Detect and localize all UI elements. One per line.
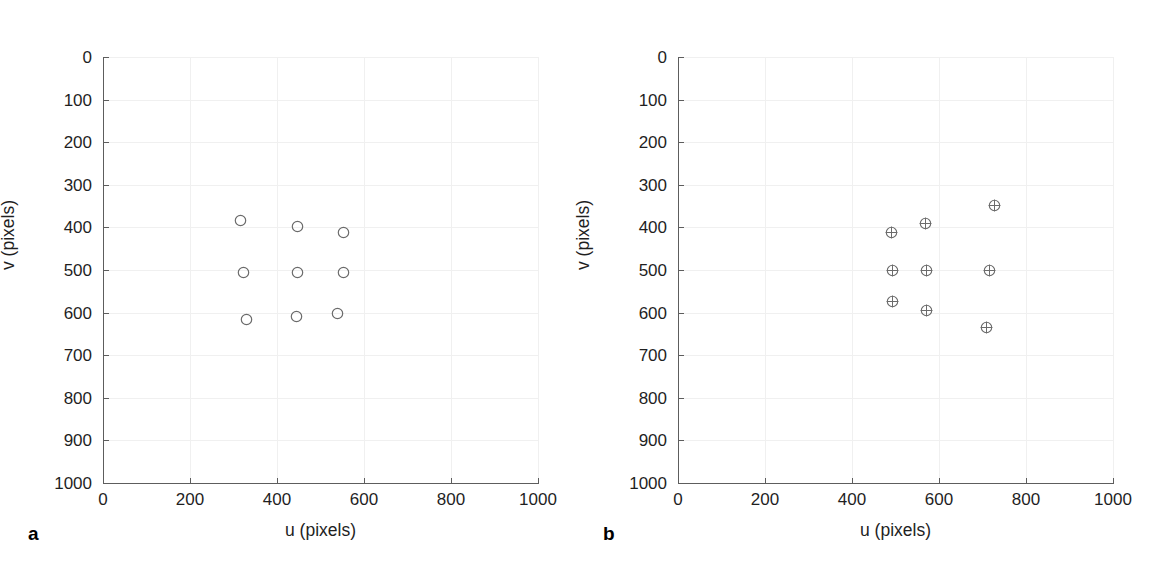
x-axis-title-b: u (pixels) — [678, 522, 1113, 540]
y-axis-tick-label: 1000 — [54, 475, 92, 492]
data-point-circle-plus-icon — [919, 217, 932, 230]
y-axis-tick — [678, 270, 684, 271]
data-point-circle-icon — [337, 226, 350, 239]
y-axis-tick — [678, 483, 684, 484]
y-axis-tick — [103, 142, 109, 143]
x-axis-title-a: u (pixels) — [103, 522, 538, 540]
y-axis-tick-label: 900 — [64, 432, 92, 449]
x-axis-tick — [190, 478, 191, 484]
gridline-horizontal — [103, 440, 538, 441]
y-axis-tick — [678, 398, 684, 399]
x-axis-tick — [277, 478, 278, 484]
x-axis-tick — [939, 478, 940, 484]
y-axis-title-a: v (pixels) — [0, 200, 18, 270]
data-point-circle-plus-icon — [988, 199, 1001, 212]
y-axis-tick-label: 400 — [64, 219, 92, 236]
x-axis-tick-label: 800 — [1012, 491, 1040, 508]
y-axis-tick — [678, 355, 684, 356]
x-axis-line-a — [103, 483, 538, 484]
gridline-horizontal — [678, 355, 1113, 356]
data-point-circle-plus-icon — [983, 264, 996, 277]
x-axis-tick-label: 400 — [263, 491, 291, 508]
x-axis-tick-label: 200 — [751, 491, 779, 508]
gridline-horizontal — [103, 100, 538, 101]
gridline-horizontal — [678, 142, 1113, 143]
y-axis-tick — [678, 440, 684, 441]
x-axis-tick-label: 600 — [925, 491, 953, 508]
y-axis-tick-label: 800 — [64, 389, 92, 406]
gridline-vertical — [1113, 57, 1114, 483]
y-axis-tick — [103, 355, 109, 356]
y-axis-tick-label: 0 — [83, 49, 92, 66]
x-axis-tick — [364, 478, 365, 484]
y-axis-tick — [103, 440, 109, 441]
data-point-circle-plus-icon — [980, 321, 993, 334]
y-axis-tick — [678, 142, 684, 143]
y-axis-tick — [103, 227, 109, 228]
y-axis-tick-label: 300 — [64, 176, 92, 193]
y-axis-tick-label: 500 — [64, 262, 92, 279]
y-axis-tick-label: 400 — [639, 219, 667, 236]
plot-area-b: 0200400600800100001002003004005006007008… — [678, 57, 1113, 483]
data-point-circle-icon — [237, 266, 250, 279]
x-axis-tick — [1026, 478, 1027, 484]
data-point-circle-icon — [290, 310, 303, 323]
gridline-horizontal — [678, 100, 1113, 101]
y-axis-tick-label: 100 — [639, 91, 667, 108]
data-point-circle-icon — [337, 266, 350, 279]
data-point-circle-icon — [331, 307, 344, 320]
y-axis-tick — [103, 398, 109, 399]
gridline-horizontal — [103, 313, 538, 314]
y-axis-title-b: v (pixels) — [575, 200, 593, 270]
x-axis-tick — [1113, 478, 1114, 484]
y-axis-tick-label: 200 — [64, 134, 92, 151]
x-axis-tick-label: 600 — [350, 491, 378, 508]
data-point-circle-plus-icon — [886, 264, 899, 277]
y-axis-tick — [678, 313, 684, 314]
x-axis-tick — [852, 478, 853, 484]
data-point-circle-icon — [291, 266, 304, 279]
gridline-horizontal — [103, 142, 538, 143]
gridline-horizontal — [103, 227, 538, 228]
gridline-horizontal — [678, 440, 1113, 441]
y-axis-tick-label: 0 — [658, 49, 667, 66]
gridline-horizontal — [678, 313, 1113, 314]
gridline-horizontal — [103, 57, 538, 58]
gridline-horizontal — [103, 270, 538, 271]
y-axis-tick-label: 600 — [639, 304, 667, 321]
y-axis-tick-label: 500 — [639, 262, 667, 279]
x-axis-tick-label: 800 — [437, 491, 465, 508]
x-axis-line-b — [678, 483, 1113, 484]
x-axis-tick — [765, 478, 766, 484]
plot-area-a: 0200400600800100001002003004005006007008… — [103, 57, 538, 483]
y-axis-tick-label: 900 — [639, 432, 667, 449]
panel-b: 0200400600800100001002003004005006007008… — [575, 0, 1151, 573]
y-axis-tick — [103, 100, 109, 101]
gridline-horizontal — [678, 398, 1113, 399]
gridline-horizontal — [678, 185, 1113, 186]
figure-root: 0200400600800100001002003004005006007008… — [0, 0, 1151, 573]
y-axis-tick-label: 100 — [64, 91, 92, 108]
y-axis-tick — [678, 227, 684, 228]
x-axis-tick-label: 0 — [98, 491, 107, 508]
data-point-circle-icon — [291, 220, 304, 233]
x-axis-tick-label: 1000 — [1094, 491, 1132, 508]
data-point-circle-icon — [234, 214, 247, 227]
y-axis-tick — [103, 483, 109, 484]
y-axis-tick-label: 200 — [639, 134, 667, 151]
y-axis-tick — [103, 313, 109, 314]
x-axis-tick-label: 400 — [838, 491, 866, 508]
y-axis-tick — [103, 185, 109, 186]
x-axis-tick-label: 0 — [673, 491, 682, 508]
data-point-circle-plus-icon — [920, 264, 933, 277]
gridline-horizontal — [103, 355, 538, 356]
y-axis-tick-label: 1000 — [629, 475, 667, 492]
y-axis-tick-label: 300 — [639, 176, 667, 193]
gridline-horizontal — [678, 57, 1113, 58]
y-axis-tick-label: 800 — [639, 389, 667, 406]
x-axis-tick — [451, 478, 452, 484]
data-point-circle-plus-icon — [886, 295, 899, 308]
y-axis-tick — [103, 57, 109, 58]
y-axis-tick — [678, 100, 684, 101]
panel-label-a: a — [28, 524, 39, 543]
